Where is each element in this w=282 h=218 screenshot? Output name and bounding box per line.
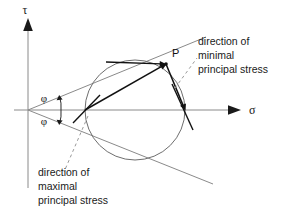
phi-lower-arc-arrowhead	[57, 120, 63, 125]
point-p-marker	[164, 62, 168, 66]
annotation-minimal-line-3: principal stress	[198, 63, 268, 75]
tau-axis-arrowhead	[23, 18, 33, 31]
annotation-minimal-line-2: minimal	[198, 49, 234, 61]
chord-p-to-right-intersection	[166, 64, 183, 106]
chord-left-pole-to-p	[85, 66, 163, 110]
annotation-minimal-line-1: direction of	[198, 35, 249, 47]
annotation-maximal-line-3: principal stress	[38, 194, 108, 206]
mohr-diagram-canvas: τ σ φ φ	[0, 0, 282, 218]
leader-lines-group	[64, 58, 197, 172]
phi-lower-label: φ	[41, 115, 47, 127]
point-p-group: P	[164, 47, 179, 66]
annotation-maximal-line-1: direction of	[38, 166, 89, 178]
leader-maximal	[64, 116, 88, 172]
leader-minimal	[175, 58, 197, 88]
annotation-maximal-line-2: maximal	[38, 180, 77, 192]
mohr-circle-figure: τ σ φ φ	[0, 0, 282, 218]
annotation-minimal-principal-stress: direction of minimal principal stress	[198, 35, 268, 75]
point-p-label: P	[172, 47, 179, 59]
maximal-direction-segment	[172, 84, 193, 130]
phi-upper-label: φ	[41, 92, 47, 104]
sigma-axis-arrowhead	[228, 105, 241, 115]
annotation-maximal-principal-stress: direction of maximal principal stress	[38, 166, 108, 206]
stress-vectors-group	[73, 61, 193, 130]
tau-axis-label: τ	[23, 3, 28, 17]
chord-upper-tangent-to-p	[106, 62, 161, 64]
sigma-axis-label: σ	[249, 103, 256, 117]
